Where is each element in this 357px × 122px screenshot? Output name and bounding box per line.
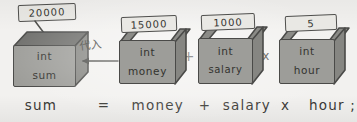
assignment-label: 代入 <box>78 35 103 54</box>
cube-money-name: money <box>120 65 175 77</box>
value-tag-sum-text: 20000 <box>28 6 65 18</box>
equation-term2: salary <box>221 97 273 113</box>
cube-hour-front-face: int hour <box>279 39 335 84</box>
cube-salary: int salary <box>197 22 271 88</box>
cube-hour-type: int <box>280 45 334 57</box>
equation-lhs: sum <box>0 97 82 113</box>
equation-line: sum = money + salary x hour ; <box>0 92 357 118</box>
equation-equals: = <box>82 97 126 113</box>
variable-box-salary: 1000 int salary <box>197 0 273 92</box>
cube-money: int money <box>118 24 194 88</box>
cube-hour-name: hour <box>280 64 334 76</box>
variable-box-money: 15000 int money <box>118 0 196 92</box>
value-tag-money-text: 15000 <box>130 18 167 30</box>
cube-salary-name: salary <box>199 64 252 75</box>
cube-salary-front-face: int salary <box>198 38 253 84</box>
equation-term1: money <box>126 97 189 113</box>
cube-money-front-face: int money <box>119 40 176 84</box>
equation-op1: + <box>189 97 221 113</box>
cube-sum-name: sum <box>14 69 75 81</box>
diagram-canvas: 20000 int sum 代入 <box>0 0 357 122</box>
value-tag-money: 15000 <box>121 15 178 33</box>
cube-money-type: int <box>120 46 175 58</box>
variable-box-hour: 5 int hour <box>277 0 355 92</box>
cube-sum-front-face: int sum <box>13 45 76 87</box>
cube-sum-type: int <box>14 50 75 62</box>
cube-hour: int hour <box>277 23 353 88</box>
equation-op2: x <box>273 97 298 113</box>
value-tag-hour-text: 5 <box>307 17 315 28</box>
cube-salary-type: int <box>199 45 252 57</box>
assignment-arrow <box>76 54 120 68</box>
value-tag-hour: 5 <box>285 14 338 32</box>
equation-term3: hour ; <box>298 97 357 113</box>
value-tag-salary-text: 1000 <box>213 16 243 28</box>
value-tag-salary: 1000 <box>201 13 256 31</box>
